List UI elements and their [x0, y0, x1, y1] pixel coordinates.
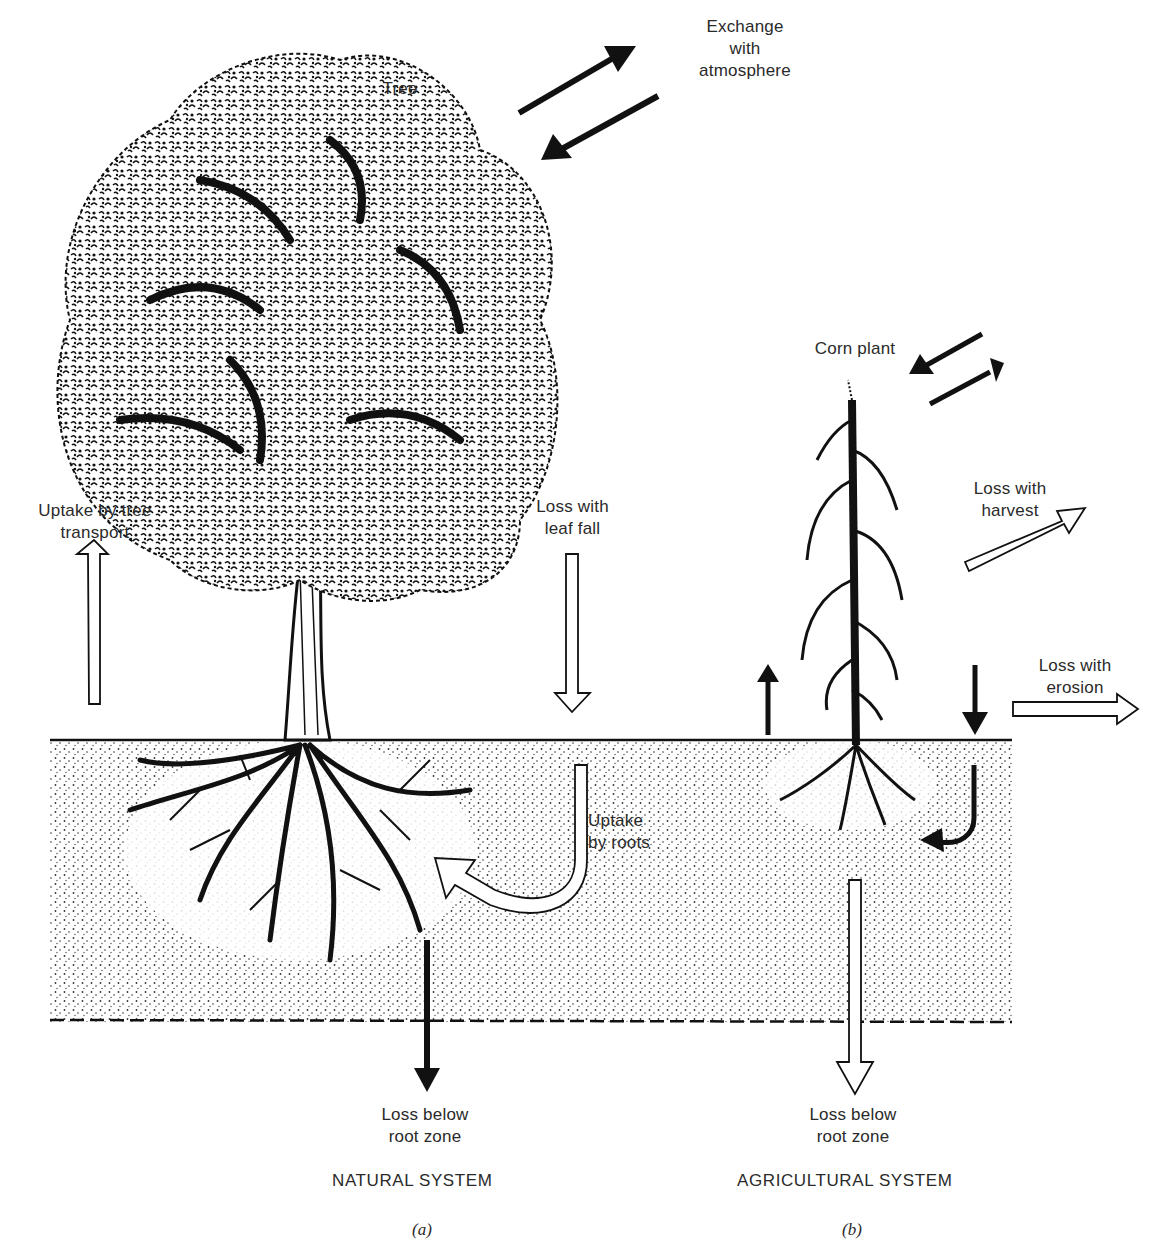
panel-a-caption: (a) — [412, 1220, 432, 1240]
leaf-fall-arrow — [555, 554, 590, 712]
loss-with-leaf-fall-label: Loss with leaf fall — [525, 496, 620, 540]
corn-plant-label: Corn plant — [800, 338, 910, 360]
agricultural-system-title: AGRICULTURAL SYSTEM — [737, 1171, 952, 1191]
loss-with-harvest-label: Loss with harvest — [955, 478, 1065, 522]
tree-uptake-arrow — [77, 540, 108, 704]
agricultural-loss-below-root-zone-label: Loss below root zone — [788, 1104, 918, 1148]
loss-with-erosion-label: Loss with erosion — [1020, 655, 1130, 699]
natural-system-title: NATURAL SYSTEM — [332, 1171, 492, 1191]
tree-label: Tree — [370, 78, 430, 100]
atmosphere-exchange-arrows-tree — [519, 46, 658, 160]
atmosphere-exchange-arrows-corn — [909, 334, 1004, 404]
panel-b-caption: (b) — [842, 1220, 862, 1240]
uptake-by-roots-label: Uptake by roots — [588, 810, 658, 854]
natural-loss-below-root-zone-label: Loss below root zone — [360, 1104, 490, 1148]
nutrient-cycle-illustration — [0, 0, 1157, 1251]
atmosphere-exchange-label: Exchange with atmosphere — [680, 16, 810, 82]
uptake-by-tree-transport-label: Uptake by tree transport — [20, 500, 170, 544]
